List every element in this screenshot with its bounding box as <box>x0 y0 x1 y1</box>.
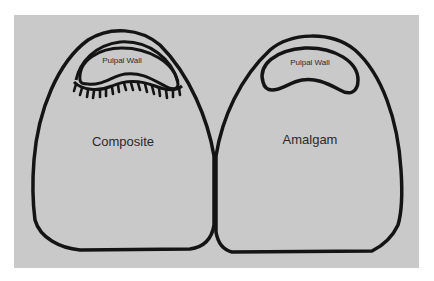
composite-tooth: Pulpal Wall Composite <box>33 31 214 250</box>
composite-pulpal-wall-label: Pulpal Wall <box>102 56 142 65</box>
amalgam-label: Amalgam <box>283 132 338 147</box>
amalgam-pulpal-wall-outline <box>262 48 358 93</box>
amalgam-pulpal-wall-label: Pulpal Wall <box>290 58 330 67</box>
tooth-diagram: Pulpal Wall Composite Pulpal Wall Amalga… <box>0 0 434 281</box>
amalgam-tooth: Pulpal Wall Amalgam <box>216 36 402 252</box>
composite-label: Composite <box>92 134 154 149</box>
